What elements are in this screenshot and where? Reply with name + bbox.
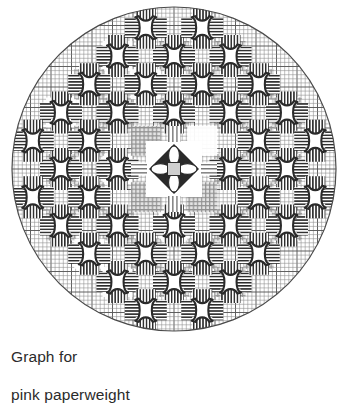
motif-pad-right (269, 131, 280, 151)
motif-pad-right (99, 74, 110, 94)
motif-pad-left (125, 244, 136, 264)
motif-pad-left (181, 244, 192, 264)
motif-pad-left (210, 46, 221, 66)
motif-pad-left (210, 272, 221, 292)
motif-pad-right (184, 272, 195, 292)
motif-pad-left (266, 216, 277, 236)
motif-pad-right (241, 216, 252, 236)
motif-pad-right (269, 187, 280, 207)
motif-pad-right (212, 300, 223, 320)
motif-pad-right (212, 74, 223, 94)
motif-pad-right (241, 272, 252, 292)
motif-pad-left (238, 244, 249, 264)
motif-pad-right (71, 216, 82, 236)
motif-pad-right (156, 18, 167, 38)
motif-pad-right (269, 74, 280, 94)
motif-pad-left (153, 103, 164, 123)
motif-pad-right (241, 46, 252, 66)
motif-pad-right (269, 244, 280, 264)
motif-pad-right (241, 159, 252, 179)
motif-pad-right (297, 159, 308, 179)
centre-arm-east (201, 163, 217, 176)
motif-pad-right (184, 103, 195, 123)
motif-pad-right (128, 216, 139, 236)
motif-pad-right (99, 187, 110, 207)
motif-pad-right (43, 131, 54, 151)
motif-pad-right (297, 103, 308, 123)
motif-pad-left (40, 159, 51, 179)
motif-pad-left (238, 74, 249, 94)
motif-pad-left (210, 216, 221, 236)
motif-pad-right (297, 216, 308, 236)
motif-pad-left (97, 216, 108, 236)
caption-line-2: pink paperweight (11, 385, 311, 404)
motif-pad-right (43, 187, 54, 207)
motif-pad-right (128, 272, 139, 292)
motif-pad-right (128, 103, 139, 123)
motif-pad-right (156, 244, 167, 264)
motif-pad-left (125, 300, 136, 320)
motif-pad-left (266, 103, 277, 123)
motif-pad-left (294, 131, 305, 151)
motif-pad-right (184, 46, 195, 66)
motif-pad-right (184, 216, 195, 236)
motif-pad-left (97, 272, 108, 292)
quatrefoil-core (168, 163, 181, 176)
motif-pad-left (181, 18, 192, 38)
motif-pad-left (97, 46, 108, 66)
motif-pad-right (241, 103, 252, 123)
motif-pad-right (99, 244, 110, 264)
motif-pad-left (97, 103, 108, 123)
motif-pad-left (294, 187, 305, 207)
motif-pad-left (40, 103, 51, 123)
motif-pad-left (68, 187, 79, 207)
motif-pad-right (71, 103, 82, 123)
motif-pad-right (212, 18, 223, 38)
centre-arm-south (168, 196, 181, 212)
motif-pad-left (266, 159, 277, 179)
figure-caption: Graph for pink paperweight (11, 328, 311, 407)
motif-pad-right (99, 131, 110, 151)
motif-pad-left (153, 272, 164, 292)
motif-pad-left (181, 74, 192, 94)
motif-pad-left (210, 103, 221, 123)
motif-pad-left (238, 187, 249, 207)
motif-pad-left (181, 300, 192, 320)
motif-pad-left (40, 216, 51, 236)
caption-line-1: Graph for (11, 347, 311, 366)
centre-arm-west (131, 163, 147, 176)
motif-pad-left (238, 131, 249, 151)
motif-pad-left (153, 46, 164, 66)
motif-pad-left (68, 131, 79, 151)
motif-pad-right (128, 46, 139, 66)
motif-pad-left (97, 159, 108, 179)
motif-pad-right (71, 159, 82, 179)
motif-pad-left (125, 18, 136, 38)
motif-pad-right (156, 74, 167, 94)
motif-pad-left (125, 74, 136, 94)
motif-pad-left (68, 74, 79, 94)
centre-arm-north (168, 126, 181, 142)
motif-pad-left (68, 244, 79, 264)
motif-pad-right (212, 244, 223, 264)
motif-pad-right (156, 300, 167, 320)
motif-pad-left (153, 216, 164, 236)
